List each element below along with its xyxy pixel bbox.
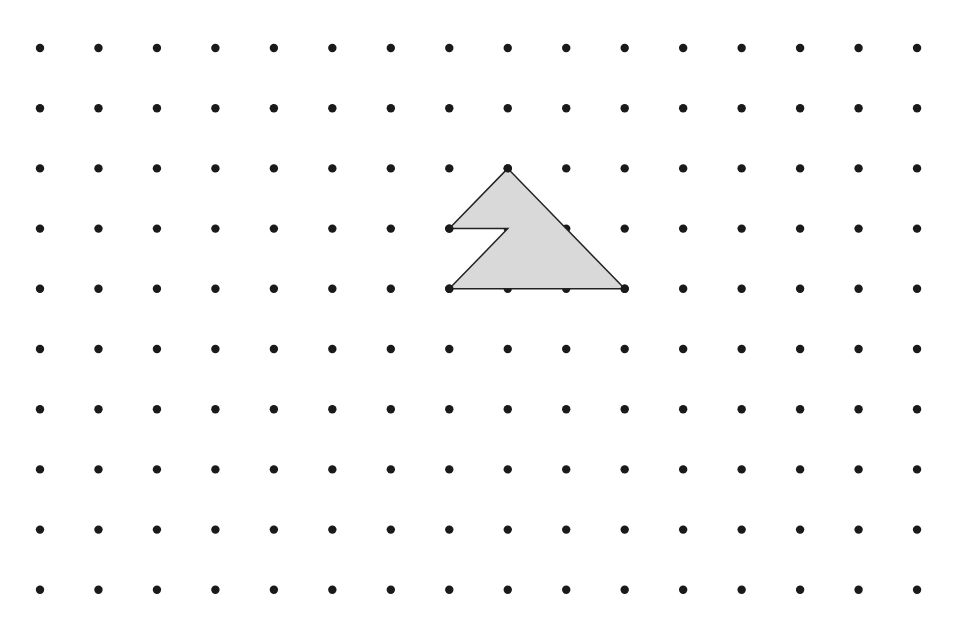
grid-dot (328, 345, 336, 353)
grid-dot (153, 224, 161, 232)
grid-dot (36, 405, 44, 413)
grid-dot (328, 285, 336, 293)
grid-dot (504, 586, 512, 594)
grid-dot (854, 224, 862, 232)
grid-dot (328, 164, 336, 172)
grid-dot (562, 586, 570, 594)
grid-dot (562, 104, 570, 112)
grid-dot (913, 44, 921, 52)
dot-grid (36, 44, 921, 594)
grid-dot (796, 104, 804, 112)
grid-dot (94, 586, 102, 594)
grid-dot (737, 285, 745, 293)
grid-dot (328, 104, 336, 112)
grid-dot (211, 104, 219, 112)
grid-dot (562, 345, 570, 353)
vertex-dot (445, 224, 453, 232)
grid-dot (387, 465, 395, 473)
grid-dot (796, 164, 804, 172)
grid-dot (387, 405, 395, 413)
grid-dot (36, 164, 44, 172)
grid-dot (153, 345, 161, 353)
grid-dot (679, 224, 687, 232)
grid-dot (36, 465, 44, 473)
grid-dot (854, 164, 862, 172)
grid-dot (504, 525, 512, 533)
grid-dot (504, 405, 512, 413)
grid-dot (504, 465, 512, 473)
grid-dot (737, 586, 745, 594)
grid-dot (504, 104, 512, 112)
grid-dot (737, 44, 745, 52)
grid-dot (854, 586, 862, 594)
grid-dot (679, 104, 687, 112)
grid-dot (796, 525, 804, 533)
grid-dot (854, 405, 862, 413)
grid-dot (211, 224, 219, 232)
grid-dot (387, 586, 395, 594)
grid-dot (36, 104, 44, 112)
grid-dot (36, 525, 44, 533)
grid-dot (679, 586, 687, 594)
grid-dot (94, 44, 102, 52)
grid-dot (679, 405, 687, 413)
grid-dot (270, 224, 278, 232)
grid-dot (211, 465, 219, 473)
grid-dot (36, 285, 44, 293)
grid-dot (270, 405, 278, 413)
grid-dot (211, 345, 219, 353)
grid-dot (153, 44, 161, 52)
grid-dot (445, 44, 453, 52)
grid-dot (328, 586, 336, 594)
grid-dot (913, 405, 921, 413)
grid-dot (445, 345, 453, 353)
grid-dot (270, 586, 278, 594)
grid-dot (737, 345, 745, 353)
grid-dot (679, 44, 687, 52)
grid-dot (504, 44, 512, 52)
grid-dot (796, 405, 804, 413)
grid-dot (445, 586, 453, 594)
grid-dot (913, 104, 921, 112)
grid-dot (270, 345, 278, 353)
grid-dot (796, 44, 804, 52)
grid-dot (270, 44, 278, 52)
grid-dot (621, 525, 629, 533)
grid-dot (153, 586, 161, 594)
grid-dot (679, 465, 687, 473)
grid-dot (153, 465, 161, 473)
grid-dot (445, 405, 453, 413)
grid-dot (913, 465, 921, 473)
grid-dot (737, 525, 745, 533)
grid-dot (913, 586, 921, 594)
grid-dot (737, 465, 745, 473)
grid-dot (36, 44, 44, 52)
grid-dot (796, 586, 804, 594)
grid-dot (621, 224, 629, 232)
grid-dot (796, 224, 804, 232)
grid-dot (328, 525, 336, 533)
grid-dot (94, 285, 102, 293)
grid-dot (737, 104, 745, 112)
grid-dot (94, 465, 102, 473)
grid-dot (445, 104, 453, 112)
grid-dot (270, 285, 278, 293)
grid-dot (94, 104, 102, 112)
grid-dot (562, 405, 570, 413)
grid-dot (679, 345, 687, 353)
grid-dot (94, 164, 102, 172)
grid-dot (913, 285, 921, 293)
grid-dot (854, 104, 862, 112)
grid-dot (270, 525, 278, 533)
grid-dot (328, 405, 336, 413)
grid-dot (36, 345, 44, 353)
grid-dot (562, 164, 570, 172)
grid-dot (621, 405, 629, 413)
grid-dot (211, 44, 219, 52)
grid-dot (562, 44, 570, 52)
grid-dot (913, 525, 921, 533)
grid-dot (153, 525, 161, 533)
grid-dot (621, 164, 629, 172)
grid-dot (94, 224, 102, 232)
grid-dot (211, 405, 219, 413)
